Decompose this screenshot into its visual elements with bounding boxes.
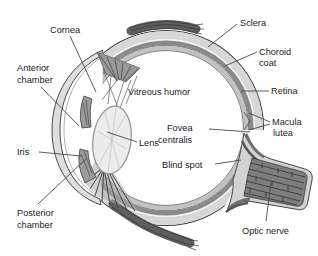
label-macula-lutea-line2: lutea <box>273 128 294 138</box>
label-anterior-chamber-line2: chamber <box>17 75 53 85</box>
label-macula-lutea-line1: Macula <box>272 117 303 127</box>
label-lens: Lens <box>139 138 159 148</box>
label-fovea-centralis-line1: Fovea <box>167 123 193 133</box>
label-retina: Retina <box>271 86 298 96</box>
label-optic-nerve: Optic nerve <box>242 226 289 236</box>
label-iris: Iris <box>17 147 30 157</box>
label-fovea-centralis-line2: centralis <box>158 135 193 145</box>
eye-diagram: Cornea Sclera Choroid coat Anterior cham… <box>0 0 318 256</box>
label-posterior-chamber-line1: Posterior <box>17 208 54 218</box>
eye-diagram-canvas: Cornea Sclera Choroid coat Anterior cham… <box>0 0 318 256</box>
label-cornea: Cornea <box>50 25 81 35</box>
label-sclera: Sclera <box>240 18 267 28</box>
label-posterior-chamber-line2: chamber <box>17 220 53 230</box>
leader-sclera <box>208 24 237 47</box>
label-anterior-chamber-line1: Anterior <box>17 63 49 73</box>
label-blind-spot: Blind spot <box>162 160 203 170</box>
label-vitreous-humor: Vitreous humor <box>128 87 190 97</box>
label-choroid-coat-line1: Choroid <box>259 47 291 57</box>
label-choroid-coat-line2: coat <box>259 58 277 68</box>
